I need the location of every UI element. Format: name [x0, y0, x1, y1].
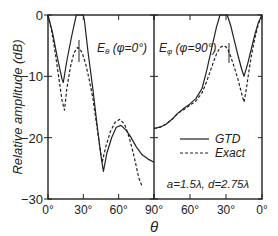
- x-tick-label: 0°: [42, 203, 54, 217]
- legend-gtd-label: GTD: [215, 132, 241, 146]
- x-tick-label: 90°: [145, 203, 163, 217]
- y-tick-label: 0: [36, 8, 43, 23]
- x-tick-label: 0°: [256, 203, 268, 217]
- y-tick-label: −30: [21, 192, 43, 207]
- y-axis-label: Relative amplitude (dB): [10, 39, 25, 174]
- gtd-curve-panel-1: [48, 15, 154, 171]
- gtd-curve-panel-2: [154, 15, 262, 129]
- x-tick-label: 60°: [181, 203, 199, 217]
- plot-frame: [48, 15, 262, 199]
- x-tick-label: 30°: [217, 203, 235, 217]
- x-tick-label: 30°: [74, 203, 92, 217]
- x-tick-label: 60°: [110, 203, 128, 217]
- x-axis-label: θ: [150, 218, 158, 235]
- curves: [48, 15, 262, 187]
- parameter-annotation: a=1.5λ, d=2.75λ: [167, 178, 250, 190]
- axes: [44, 15, 262, 199]
- panel-title: Eθ (φ=0°): [97, 41, 147, 56]
- radiation-pattern-chart: 0−10−20−300°30°60°90°60°30°0°Eθ (φ=0°)Eφ…: [0, 0, 278, 236]
- legend-exact-label: Exact: [215, 146, 246, 160]
- panel-title: Eφ (φ=90°): [159, 41, 217, 56]
